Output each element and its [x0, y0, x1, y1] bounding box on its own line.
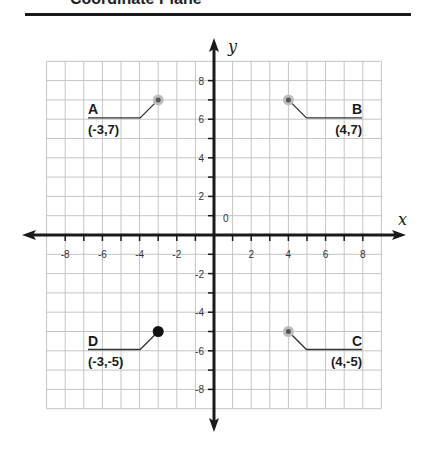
point-b: B(4,7) [283, 94, 362, 136]
point-name: B [352, 101, 362, 117]
points: A(-3,7)B(4,7)C(4,-5)D(-3,-5) [88, 94, 362, 368]
point-d: D(-3,-5) [88, 326, 164, 369]
point-marker [156, 97, 161, 102]
point-a: A(-3,7) [88, 94, 164, 136]
point-marker [286, 97, 291, 102]
y-tick-label: -4 [195, 307, 204, 318]
point-coordinates: (-3,7) [88, 122, 119, 137]
point-c: C(4,-5) [283, 326, 362, 369]
y-tick-label: -6 [195, 346, 204, 357]
point-name: D [88, 333, 98, 349]
x-tick-label: 2 [248, 249, 254, 260]
point-name: A [88, 101, 98, 117]
leader-line [88, 100, 158, 118]
axes [22, 38, 406, 432]
point-coordinates: (-3,-5) [88, 354, 123, 369]
y-tick-label: -8 [195, 384, 204, 395]
y-tick-label: 6 [198, 114, 204, 125]
point-marker [153, 326, 164, 337]
y-axis-label: y [227, 37, 238, 56]
x-tick-label: -4 [135, 249, 144, 260]
y-tick-label: 4 [198, 153, 204, 164]
point-coordinates: (4,7) [335, 122, 362, 137]
point-name: C [352, 333, 362, 349]
x-axis-label: x [398, 210, 407, 229]
x-tick-label: -8 [61, 249, 70, 260]
x-tick-label: 6 [323, 249, 329, 260]
y-tick-label: -2 [195, 269, 204, 280]
point-coordinates: (4,-5) [331, 354, 362, 369]
x-tick-label: 8 [360, 249, 366, 260]
point-marker [286, 329, 291, 334]
leader-line [88, 332, 158, 350]
x-tick-label: -2 [172, 249, 181, 260]
origin-label: 0 [223, 213, 229, 224]
x-tick-label: -6 [98, 249, 107, 260]
coordinate-plane: -8-6-4-224688642-2-4-6-80xy A(-3,7)B(4,7… [0, 0, 429, 451]
y-tick-label: 2 [198, 191, 204, 202]
x-tick-label: 4 [286, 249, 292, 260]
y-tick-label: 8 [198, 76, 204, 87]
